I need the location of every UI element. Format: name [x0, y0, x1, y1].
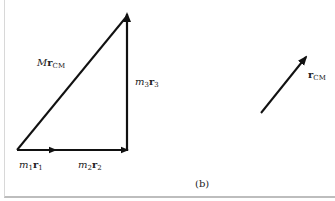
label-m3r3: m3r3	[135, 77, 159, 89]
label-m1r1: m1r1	[19, 160, 43, 172]
label-rCM: rCM	[308, 70, 326, 82]
label-m2r2: m2r2	[78, 160, 102, 172]
vector-MrCM-arrow	[17, 16, 127, 150]
label-MrCM: MrCM	[37, 58, 65, 70]
panel-label: (b)	[195, 179, 209, 189]
vector-rCM-arrow	[261, 57, 306, 113]
vector-diagram	[0, 0, 335, 201]
